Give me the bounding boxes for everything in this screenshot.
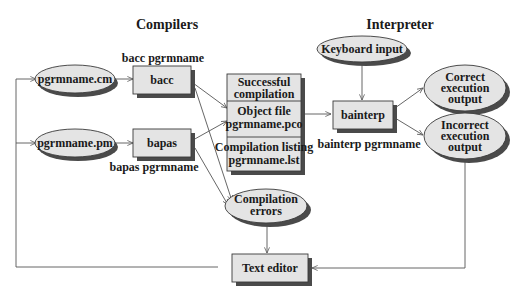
node-bacc: bacc [133, 66, 195, 98]
compilation-errors-line2: errors [250, 204, 282, 218]
bainterp-label: bainterp [341, 108, 385, 122]
listing-line2: pgrmname.lst [229, 153, 300, 167]
edge-bapas-to-object [193, 121, 227, 140]
compilers-heading: Compilers [136, 17, 199, 32]
correct-output-line3: output [448, 92, 482, 106]
node-bapas: bapas [133, 129, 195, 161]
node-compilation-listing: Compilation listing pgrmname.lst [215, 140, 313, 167]
node-pgrmname-cm: pgrmname.cm [35, 65, 118, 97]
object-file-line1: Object file [237, 104, 291, 118]
incorrect-output-line3: output [448, 140, 482, 154]
bacc-command-caption: bacc pgrmname [122, 51, 205, 65]
bacc-label: bacc [150, 73, 174, 87]
node-correct-output: Correct execution output [424, 65, 510, 115]
keyboard-input-label: Keyboard input [321, 42, 403, 56]
listing-line1: Compilation listing [215, 140, 313, 154]
node-bainterp: bainterp [333, 101, 397, 133]
text-editor-label: Text editor [242, 261, 299, 275]
bainterp-command-caption: bainterp pgrmname [318, 137, 422, 151]
bapas-command-caption: bapas pgrmname [109, 160, 199, 174]
node-text-editor: Text editor [232, 254, 312, 286]
pgrmname-pm-label: pgrmname.pm [37, 136, 113, 150]
node-incorrect-output: Incorrect execution output [424, 113, 510, 163]
edge-bapas-to-errors [195, 148, 228, 205]
interpreter-heading: Interpreter [366, 17, 433, 32]
edge-bainterp-to-incorrect [395, 118, 423, 135]
bapas-label: bapas [147, 136, 177, 150]
node-keyboard-input: Keyboard input [317, 36, 411, 66]
node-compile-results: Successful compilation Object file pgrmn… [215, 74, 313, 175]
successful-line2: compilation [234, 87, 295, 101]
object-file-line2: pgrmname.pco [226, 117, 303, 131]
compile-interpret-diagram: Compilers Interpreter pgrmname.cm [0, 0, 526, 294]
node-successful-compilation: Successful compilation [234, 75, 295, 101]
node-compilation-errors: Compilation errors [225, 189, 311, 227]
node-pgrmname-pm: pgrmname.pm [35, 129, 118, 161]
edge-incorrect-to-editor [312, 158, 465, 268]
pgrmname-cm-label: pgrmname.cm [38, 72, 112, 86]
edge-bacc-to-object [193, 83, 227, 108]
edge-bainterp-to-correct [395, 88, 423, 108]
